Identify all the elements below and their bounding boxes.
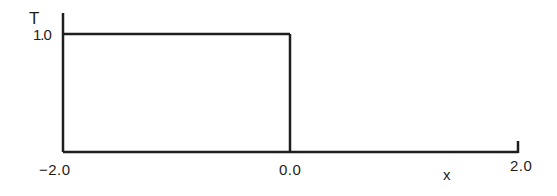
x-tick-label-neg2: −2.0 (39, 162, 71, 177)
y-tick-label-1: 1.0 (33, 27, 51, 42)
x-tick-label-2: 2.0 (510, 158, 532, 173)
x-axis-label: x (443, 167, 451, 182)
y-axis-label: T (29, 10, 39, 27)
x-tick-label-0: 0.0 (279, 162, 301, 177)
